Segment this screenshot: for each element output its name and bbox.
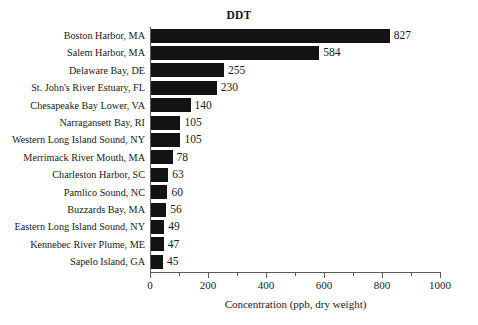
y-axis-line: [150, 27, 151, 272]
bar: [150, 237, 164, 251]
bar-row: 827: [150, 27, 440, 44]
bar-row: 78: [150, 149, 440, 166]
x-tick-major: [150, 273, 151, 278]
category-label: Narragansett Bay, RI: [0, 114, 145, 131]
bar: [150, 203, 166, 217]
bar-row: 584: [150, 44, 440, 61]
x-tick-label: 0: [147, 279, 153, 291]
x-tick-label: 800: [374, 279, 391, 291]
bar: [150, 220, 164, 234]
category-label: Chesapeake Bay Lower, VA: [0, 97, 145, 114]
bar-value-label: 827: [394, 28, 411, 43]
bar-row: 45: [150, 253, 440, 270]
bar-value-label: 255: [228, 63, 245, 78]
category-label: St. John's River Estuary, FL: [0, 79, 145, 96]
bar-value-label: 105: [184, 132, 201, 147]
bar-value-label: 45: [167, 254, 179, 269]
bar: [150, 63, 224, 77]
x-tick-label: 1000: [429, 279, 451, 291]
plot-area: 82758425523014010510578636056494745: [150, 27, 440, 272]
x-tick-major: [208, 273, 209, 278]
bar-value-label: 584: [323, 45, 340, 60]
bar-row: 230: [150, 79, 440, 96]
category-axis-labels: Boston Harbor, MASalem Harbor, MADelawar…: [0, 27, 145, 272]
x-tick-major: [440, 273, 441, 278]
bar-row: 105: [150, 114, 440, 131]
category-label: Delaware Bay, DE: [0, 62, 145, 79]
bar-row: 49: [150, 218, 440, 235]
bar-value-label: 230: [221, 80, 238, 95]
bar-row: 105: [150, 131, 440, 148]
x-tick-major: [324, 273, 325, 278]
bar-value-label: 78: [177, 150, 189, 165]
ddt-concentration-bar-chart: DDT Boston Harbor, MASalem Harbor, MADel…: [0, 0, 478, 325]
chart-title: DDT: [0, 9, 478, 21]
bar: [150, 46, 319, 60]
bar-value-label: 63: [172, 167, 184, 182]
bar-value-label: 60: [171, 185, 183, 200]
bar: [150, 29, 390, 43]
bar: [150, 255, 163, 269]
x-tick-label: 600: [316, 279, 333, 291]
x-tick-minor: [411, 273, 412, 276]
x-tick-label: 400: [258, 279, 275, 291]
x-tick-minor: [353, 273, 354, 276]
category-label: Boston Harbor, MA: [0, 27, 145, 44]
bar-row: 255: [150, 62, 440, 79]
bar: [150, 81, 217, 95]
category-label: Merrimack River Mouth, MA: [0, 149, 145, 166]
bar-row: 47: [150, 236, 440, 253]
bar: [150, 150, 173, 164]
bar: [150, 98, 191, 112]
bar-row: 140: [150, 97, 440, 114]
category-label: Buzzards Bay, MA: [0, 201, 145, 218]
category-label: Eastern Long Island Sound, NY: [0, 218, 145, 235]
bar-value-label: 49: [168, 219, 180, 234]
x-tick-label: 200: [200, 279, 217, 291]
category-label: Salem Harbor, MA: [0, 44, 145, 61]
x-tick-major: [382, 273, 383, 278]
x-tick-minor: [237, 273, 238, 276]
category-label: Western Long Island Sound, NY: [0, 131, 145, 148]
category-label: Kennebec River Plume, ME: [0, 236, 145, 253]
category-label: Sapelo Island, GA: [0, 253, 145, 270]
bar-row: 60: [150, 184, 440, 201]
x-tick-minor: [295, 273, 296, 276]
bar-value-label: 105: [184, 115, 201, 130]
bar: [150, 133, 180, 147]
bar-value-label: 47: [168, 237, 180, 252]
bar-row: 56: [150, 201, 440, 218]
x-axis-title: Concentration (ppb, dry weight): [150, 298, 441, 310]
bar: [150, 116, 180, 130]
category-label: Charleston Harbor, SC: [0, 166, 145, 183]
category-label: Pamlico Sound, NC: [0, 184, 145, 201]
bar: [150, 185, 167, 199]
bar: [150, 168, 168, 182]
x-tick-major: [266, 273, 267, 278]
bar-row: 63: [150, 166, 440, 183]
bar-value-label: 140: [195, 98, 212, 113]
bar-value-label: 56: [170, 202, 182, 217]
x-tick-minor: [179, 273, 180, 276]
